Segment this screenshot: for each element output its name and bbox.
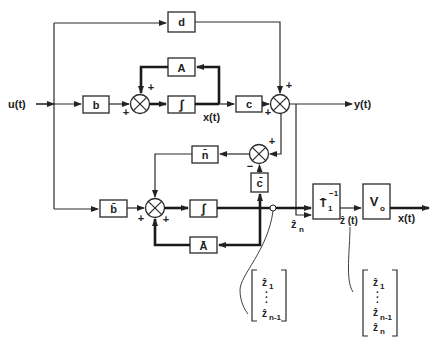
svg-text:n-1: n-1 bbox=[380, 313, 393, 322]
svg-text:ẑ: ẑ bbox=[262, 308, 267, 319]
sum2-sign-top: + bbox=[286, 79, 292, 91]
wire-x-to-A bbox=[197, 67, 219, 104]
input-label-u: u(t) bbox=[8, 98, 26, 110]
svg-text:1: 1 bbox=[269, 282, 274, 291]
wire-zhat-to-Abar bbox=[219, 208, 260, 245]
callout-line-right bbox=[348, 227, 353, 292]
block-V-label: V bbox=[370, 194, 379, 209]
svg-text:n: n bbox=[380, 327, 385, 336]
sum1-sign-top: + bbox=[148, 81, 154, 93]
sum4-sign-bottom: + bbox=[163, 213, 169, 225]
block-n-bar-label: n̄ bbox=[202, 149, 209, 161]
block-T-label: T̄ bbox=[320, 197, 327, 209]
block-b-bar-label: b̄ bbox=[110, 203, 117, 215]
wire-Abar-to-sum4 bbox=[155, 219, 190, 245]
zhat-n-sub: n bbox=[299, 225, 304, 234]
output-label-y: y(t) bbox=[354, 98, 371, 110]
wire-y-to-T bbox=[296, 104, 311, 215]
tap-point-circle bbox=[270, 205, 276, 211]
block-A-bar-label: Ā bbox=[200, 240, 208, 252]
sum3-sign-right: + bbox=[269, 135, 275, 147]
zhat-t-label: ẑ (t) bbox=[340, 215, 358, 226]
zhat-n-label: ẑ bbox=[291, 218, 297, 230]
block-b-label: b bbox=[93, 99, 100, 111]
sum3-sign-bottom: − bbox=[247, 160, 253, 172]
state-label-x: x(t) bbox=[203, 111, 220, 123]
svg-text:ẑ: ẑ bbox=[373, 322, 378, 333]
wire-A-to-sum1 bbox=[141, 67, 168, 93]
block-c-label: c bbox=[246, 98, 252, 110]
block-c-bar-label: c̄ bbox=[256, 177, 262, 189]
block-diagram: u(t) d b + + A ∫ x(t) c + + y(t) bbox=[0, 0, 437, 349]
summing-junction-4 bbox=[146, 199, 165, 218]
block-T-sub: 1 bbox=[328, 204, 333, 213]
block-d-label: d bbox=[178, 16, 185, 28]
block-T-sup: −1 bbox=[329, 189, 339, 198]
svg-text:n-1: n-1 bbox=[269, 313, 282, 322]
summing-junction-2 bbox=[271, 95, 290, 114]
wire-y-to-sum3 bbox=[270, 114, 281, 155]
svg-text:ẑ: ẑ bbox=[373, 307, 378, 318]
block-A-label: A bbox=[178, 62, 186, 74]
svg-text:·: · bbox=[265, 297, 268, 308]
sum2-sign-left: + bbox=[265, 106, 271, 118]
summing-junction-1 bbox=[131, 95, 150, 114]
block-V-sub: o bbox=[380, 204, 385, 213]
vector-right: ẑ 1 · · · ẑ n-1 ẑ n bbox=[363, 270, 397, 336]
vector-left: ẑ 1 · · · ẑ n-1 bbox=[252, 270, 286, 322]
sum4-sign-left: + bbox=[138, 212, 144, 224]
sum1-sign-left: + bbox=[123, 106, 129, 118]
wire-nbar-to-sum4 bbox=[155, 154, 192, 197]
wire-d-to-sum2 bbox=[195, 22, 280, 93]
svg-text:1: 1 bbox=[380, 282, 385, 291]
output-label-x: x(t) bbox=[398, 212, 415, 224]
